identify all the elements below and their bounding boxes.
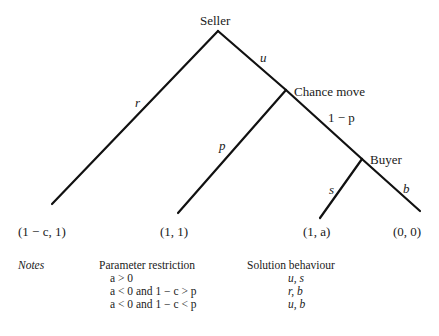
solution-header: Solution behaviour [247,259,335,272]
param-row-3: a < 0 and 1 − c < p [110,298,197,311]
edge-u [218,31,286,90]
node-seller: Seller [200,14,230,27]
solution-row-3: u, b [288,298,305,311]
payoff-r: (1 − c, 1) [18,225,66,238]
edge-p [178,90,286,213]
notes-label: Notes [18,259,44,272]
payoff-p: (1, 1) [160,225,188,238]
edge-label-u: u [260,51,267,64]
node-buyer: Buyer [370,153,402,166]
edge-s [320,159,362,218]
param-row-1: a > 0 [110,272,133,285]
solution-row-1: u, s [288,272,304,285]
edge-label-1-minus-p: 1 − p [328,111,355,124]
param-row-2: a < 0 and 1 − c > p [110,285,197,298]
payoff-b: (0, 0) [393,225,421,238]
edge-r [52,31,218,204]
solution-row-2: r, b [288,285,303,298]
payoff-s: (1, a) [303,225,330,238]
edge-label-s: s [329,183,334,196]
edge-label-r: r [135,96,140,109]
node-chance-move: Chance move [294,85,365,98]
param-header: Parameter restriction [99,259,195,272]
edge-label-p: p [219,139,226,152]
edge-label-b: b [403,182,410,195]
game-tree [0,0,439,336]
